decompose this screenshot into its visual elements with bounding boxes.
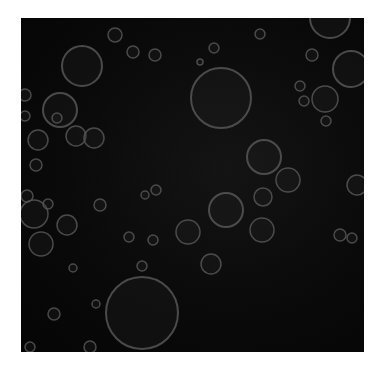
bubble — [254, 188, 272, 206]
bubble — [94, 199, 106, 211]
bubble — [21, 190, 33, 202]
bubble — [334, 229, 346, 241]
bubble — [191, 68, 251, 128]
bubble — [92, 300, 100, 308]
bubble-texture-image — [21, 18, 364, 352]
bubble — [21, 89, 31, 101]
bubble — [62, 46, 102, 86]
bubble — [57, 215, 77, 235]
bubble — [299, 96, 309, 106]
bubble — [176, 220, 200, 244]
bubble — [312, 86, 338, 112]
bubble — [28, 130, 48, 150]
bubble — [108, 28, 122, 42]
bubble — [310, 18, 350, 38]
bubble — [276, 168, 300, 192]
bubble — [347, 233, 357, 243]
bubble — [124, 232, 134, 242]
bubble — [69, 264, 77, 272]
bubble — [148, 235, 158, 245]
bubble — [48, 308, 60, 320]
bubble — [149, 49, 161, 61]
bubble — [21, 111, 30, 121]
bubble — [84, 128, 104, 148]
bubble — [66, 126, 86, 146]
bubble — [141, 191, 149, 199]
bubble — [151, 185, 161, 195]
bubble — [52, 113, 62, 123]
bubbles-layer — [21, 18, 364, 352]
bubble — [43, 199, 53, 209]
bubble — [347, 175, 364, 195]
bubble — [333, 51, 364, 87]
bubble — [25, 342, 35, 352]
bubble — [30, 159, 42, 171]
bubble — [250, 218, 274, 242]
bubble — [321, 116, 331, 126]
bubble — [137, 261, 147, 271]
bubble — [201, 254, 221, 274]
bubble — [29, 232, 53, 256]
bubble — [306, 49, 318, 61]
bubble — [84, 341, 96, 352]
bubble — [197, 59, 203, 65]
bubble — [295, 81, 305, 91]
bubble — [209, 43, 219, 53]
bubble — [247, 140, 281, 174]
bubble — [255, 29, 265, 39]
bubble — [127, 46, 139, 58]
bubble — [106, 277, 178, 349]
bubble — [209, 193, 243, 227]
